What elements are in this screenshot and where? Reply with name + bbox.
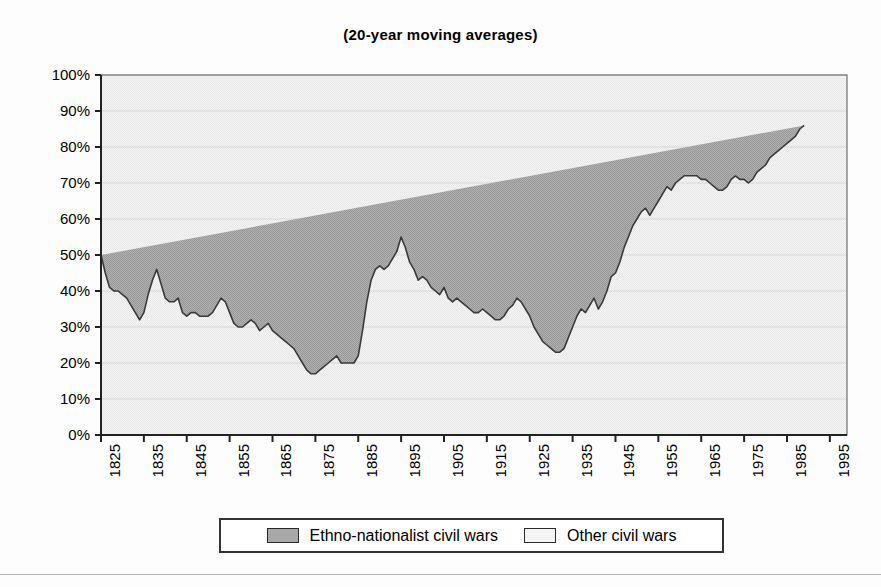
- x-axis-tick-label: 1875: [321, 444, 336, 477]
- x-axis-tick-label: 1845: [193, 444, 208, 477]
- legend-item-other[interactable]: Other civil wars: [524, 527, 676, 545]
- x-axis-tick-label: 1915: [493, 444, 508, 477]
- plot-area: 0%10%20%30%40%50%60%70%80%90%100% 182518…: [0, 0, 881, 510]
- area-chart-svg: [0, 0, 881, 510]
- legend-label-ethno: Ethno-nationalist civil wars: [310, 527, 499, 545]
- x-axis-tick-label: 1985: [793, 444, 808, 477]
- x-axis-tick-label: 1835: [150, 444, 165, 477]
- chart-figure: (20-year moving averages): [0, 0, 881, 587]
- x-axis-tick-label: 1975: [750, 444, 765, 477]
- x-axis-tick-label: 1895: [407, 444, 422, 477]
- y-axis-tick-label: 40%: [28, 283, 90, 298]
- legend-swatch-icon-other: [524, 528, 556, 543]
- y-axis-labels: 0%10%20%30%40%50%60%70%80%90%100%: [28, 0, 90, 510]
- y-axis-tick-label: 50%: [28, 247, 90, 262]
- x-axis-tick-label: 1925: [536, 444, 551, 477]
- x-axis-tick-label: 1825: [107, 444, 122, 477]
- x-axis-tick-label: 1955: [664, 444, 679, 477]
- x-axis-tick-label: 1885: [364, 444, 379, 477]
- y-axis-tick-label: 80%: [28, 139, 90, 154]
- y-axis-tick-label: 90%: [28, 103, 90, 118]
- x-axis-tick-label: 1905: [450, 444, 465, 477]
- x-axis-tick-label: 1865: [278, 444, 293, 477]
- x-axis-tick-label: 1945: [621, 444, 636, 477]
- y-axis-tick-label: 70%: [28, 175, 90, 190]
- legend-label-other: Other civil wars: [567, 527, 676, 545]
- page-divider: [0, 574, 881, 575]
- y-axis-tick-label: 20%: [28, 355, 90, 370]
- y-axis-tick-label: 10%: [28, 391, 90, 406]
- x-axis-labels: 1825183518451855186518751885189519051915…: [0, 438, 881, 508]
- y-axis-tick-label: 60%: [28, 211, 90, 226]
- x-axis-tick-label: 1965: [707, 444, 722, 477]
- x-axis-tick-label: 1855: [236, 444, 251, 477]
- x-axis-tick-label: 1935: [579, 444, 594, 477]
- x-axis-tick-label: 1995: [836, 444, 851, 477]
- legend-swatch-icon-ethno: [267, 528, 299, 543]
- y-axis-tick-label: 100%: [28, 67, 90, 82]
- legend-item-ethno-nationalist[interactable]: Ethno-nationalist civil wars: [267, 527, 499, 545]
- y-axis-tick-label: 30%: [28, 319, 90, 334]
- chart-legend: Ethno-nationalist civil wars Other civil…: [219, 518, 724, 553]
